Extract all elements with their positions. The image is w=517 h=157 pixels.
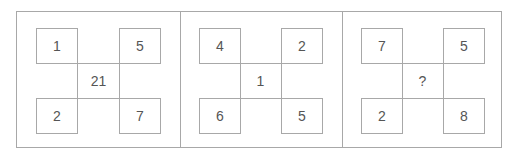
cell-center-unknown: ?	[402, 63, 443, 98]
cell-top-right: 5	[119, 28, 161, 64]
cell-top-left: 1	[36, 28, 78, 64]
cross-line	[443, 63, 444, 98]
cell-bottom-right: 5	[281, 98, 323, 134]
cell-top-left: 7	[361, 28, 403, 64]
cell-bottom-right: 7	[119, 98, 161, 134]
cross-line	[119, 63, 120, 98]
cross-line	[240, 98, 282, 99]
cell-top-right: 2	[281, 28, 323, 64]
cell-bottom-left: 2	[361, 98, 403, 134]
cell-center: 21	[78, 63, 119, 98]
cell-center: 1	[240, 63, 281, 98]
cell-top-left: 4	[199, 28, 241, 64]
cell-bottom-left: 6	[199, 98, 241, 134]
panel-divider	[342, 11, 343, 148]
panel-divider	[180, 11, 181, 148]
cross-line	[77, 98, 120, 99]
cell-bottom-left: 2	[36, 98, 78, 134]
cell-top-right: 5	[443, 28, 485, 64]
cross-line	[402, 98, 444, 99]
cross-line	[281, 63, 282, 98]
cell-bottom-right: 8	[443, 98, 485, 134]
